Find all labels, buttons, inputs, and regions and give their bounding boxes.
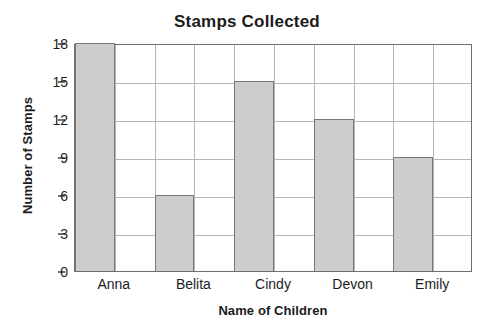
- y-tick-label: 12: [24, 113, 68, 127]
- y-tick-label: 9: [24, 151, 68, 165]
- gridline-vertical: [433, 45, 434, 271]
- y-tick-label: 6: [24, 189, 68, 203]
- y-tick-label: 18: [24, 37, 68, 51]
- gridline-vertical: [354, 45, 355, 271]
- x-tick-label-emily: Emily: [382, 276, 482, 292]
- gridline-vertical: [274, 45, 275, 271]
- chart-title: Stamps Collected: [0, 12, 494, 32]
- bar-belita: [155, 195, 195, 271]
- y-tick-label: 3: [24, 227, 68, 241]
- plot-area: [74, 44, 472, 272]
- gridline-vertical: [115, 45, 116, 271]
- bar-anna: [75, 43, 115, 271]
- gridline-vertical: [194, 45, 195, 271]
- y-tick-label: 15: [24, 75, 68, 89]
- x-axis-title: Name of Children: [74, 303, 472, 318]
- bar-cindy: [234, 81, 274, 271]
- y-tick-label: 0: [24, 265, 68, 279]
- bar-chart: Stamps Collected Number of Stamps 036912…: [0, 0, 494, 334]
- y-axis-tick-labels: 0369121518: [16, 0, 68, 334]
- bar-devon: [314, 119, 354, 271]
- bar-emily: [393, 157, 433, 271]
